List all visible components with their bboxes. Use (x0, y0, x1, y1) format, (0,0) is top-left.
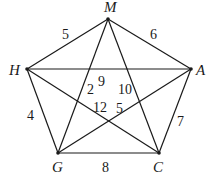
edge-A-C (159, 69, 191, 153)
vertex-C-dot (157, 151, 161, 155)
vertex-dots-layer (25, 17, 193, 155)
vertex-H-dot (25, 67, 29, 71)
edge-weight-H-C: 12 (93, 100, 107, 115)
vertex-label-A: A (195, 62, 206, 78)
edge-weight-H-A: 9 (98, 74, 105, 89)
weighted-graph-diagram: MHAGC 564789102125 (0, 0, 208, 176)
vertex-labels-layer: MHAGC (8, 0, 206, 175)
edge-weight-M-G: 2 (87, 82, 94, 97)
edge-weight-M-A: 6 (150, 27, 157, 42)
edge-weight-A-C: 7 (177, 114, 184, 129)
vertex-label-M: M (103, 0, 118, 15)
vertex-label-H: H (8, 62, 21, 78)
edge-weight-G-C: 8 (102, 160, 109, 175)
edge-weight-H-G: 4 (27, 108, 34, 123)
vertex-A-dot (189, 67, 193, 71)
edge-weight-M-C: 10 (118, 82, 132, 97)
vertex-label-C: C (153, 159, 164, 175)
edge-weight-A-G: 5 (116, 101, 123, 116)
vertex-G-dot (56, 151, 60, 155)
vertex-label-G: G (52, 159, 63, 175)
edge-weight-M-H: 5 (62, 27, 69, 42)
edges-layer (27, 19, 191, 153)
vertex-M-dot (106, 17, 110, 21)
